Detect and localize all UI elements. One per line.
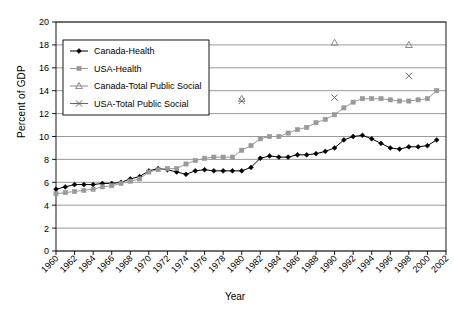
x-tick-label: 1974 (169, 253, 190, 274)
data-marker-diamond (388, 146, 393, 151)
data-marker-square (119, 181, 123, 185)
data-marker-diamond (369, 136, 374, 141)
data-marker-diamond (91, 182, 96, 187)
data-marker-square (425, 97, 429, 101)
data-marker-square (323, 117, 327, 121)
data-marker-square (416, 98, 420, 102)
y-tick-label: 4 (44, 201, 49, 211)
x-tick-label: 1972 (151, 253, 172, 274)
data-marker-diamond (323, 149, 328, 154)
x-tick-label: 1964 (76, 253, 97, 274)
x-tick-label: 1976 (188, 253, 209, 274)
y-tick-label: 20 (39, 17, 49, 27)
x-tick-label: 1966 (95, 253, 116, 274)
data-marker-square (77, 66, 81, 70)
data-marker-square (91, 187, 95, 191)
data-marker-square (54, 192, 58, 196)
x-tick-label: 1960 (39, 253, 60, 274)
data-marker-square (258, 137, 262, 141)
data-marker-diamond (304, 152, 309, 157)
data-marker-square (351, 100, 355, 104)
data-marker-diamond (81, 182, 86, 187)
y-tick-label: 2 (44, 224, 49, 234)
data-marker-square (221, 155, 225, 159)
data-marker-diamond (211, 168, 216, 173)
x-tick-label: 2000 (411, 253, 432, 274)
data-marker-cross (406, 73, 412, 79)
data-marker-square (156, 168, 160, 172)
x-tick-label: 1970 (132, 253, 153, 274)
data-marker-diamond (193, 168, 198, 173)
data-marker-square (165, 166, 169, 170)
x-tick-label: 1984 (262, 253, 283, 274)
x-tick-label: 1998 (392, 253, 413, 274)
data-marker-square (342, 106, 346, 110)
data-marker-square (277, 134, 281, 138)
data-marker-diamond (221, 168, 226, 173)
x-axis-title-text: Year (225, 291, 245, 302)
x-tick-label: 1996 (373, 253, 394, 274)
x-tick-label: 1986 (281, 253, 302, 274)
data-marker-square (332, 113, 336, 117)
x-tick-label: 1962 (58, 253, 79, 274)
data-marker-diamond (72, 182, 77, 187)
data-marker-square (212, 155, 216, 159)
legend-label: USA-Health (94, 64, 142, 74)
data-marker-diamond (314, 151, 319, 156)
y-tick-label: 6 (44, 178, 49, 188)
series-0 (54, 133, 440, 192)
data-marker-diamond (434, 138, 439, 143)
legend-label: Canada-Total Public Social (94, 81, 202, 91)
x-tick-label: 1968 (113, 253, 134, 274)
chart-container: 0246810121416182019601962196419661968197… (0, 0, 454, 310)
data-marker-square (360, 97, 364, 101)
data-marker-square (137, 177, 141, 181)
data-marker-square (72, 189, 76, 193)
data-marker-diamond (286, 155, 291, 160)
y-axis-title: Percent of GDP (16, 47, 27, 157)
data-marker-square (147, 170, 151, 174)
data-marker-square (314, 121, 318, 125)
data-marker-square (379, 97, 383, 101)
data-marker-square (370, 97, 374, 101)
data-marker-square (202, 156, 206, 160)
y-tick-label: 0 (44, 246, 49, 256)
data-marker-diamond (360, 133, 365, 138)
data-marker-diamond (63, 184, 68, 189)
data-marker-diamond (276, 155, 281, 160)
line-chart: 0246810121416182019601962196419661968197… (0, 0, 454, 310)
legend-label: Canada-Health (94, 46, 155, 56)
data-marker-triangle (331, 39, 338, 45)
y-tick-label: 14 (39, 86, 49, 96)
x-tick-label: 1994 (355, 253, 376, 274)
data-marker-square (397, 99, 401, 103)
data-marker-cross (331, 94, 337, 100)
series-2 (238, 39, 412, 101)
x-tick-label: 2002 (429, 253, 450, 274)
data-marker-square (305, 125, 309, 129)
x-tick-label: 1980 (225, 253, 246, 274)
y-tick-label: 10 (39, 132, 49, 142)
data-marker-square (267, 134, 271, 138)
x-axis-title: Year (0, 291, 454, 302)
data-marker-diamond (416, 144, 421, 149)
data-marker-square (240, 148, 244, 152)
data-marker-square (63, 191, 67, 195)
x-tick-label: 1990 (318, 253, 339, 274)
data-marker-diamond (295, 152, 300, 157)
data-marker-square (184, 162, 188, 166)
x-tick-label: 1982 (243, 253, 264, 274)
data-marker-square (388, 98, 392, 102)
data-marker-diamond (230, 168, 235, 173)
data-marker-diamond (239, 168, 244, 173)
x-tick-label: 1988 (299, 253, 320, 274)
data-marker-square (100, 185, 104, 189)
y-tick-label: 18 (39, 40, 49, 50)
data-marker-diamond (379, 141, 384, 146)
data-marker-square (128, 179, 132, 183)
data-marker-diamond (351, 134, 356, 139)
data-marker-diamond (425, 143, 430, 148)
data-marker-diamond (406, 144, 411, 149)
data-marker-square (82, 188, 86, 192)
data-marker-square (175, 166, 179, 170)
